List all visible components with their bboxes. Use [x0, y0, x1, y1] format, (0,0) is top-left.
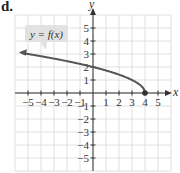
svg-text:y: y: [88, 0, 95, 11]
svg-text:3: 3: [84, 48, 90, 60]
svg-text:2: 2: [116, 96, 122, 108]
svg-text:−2: −2: [77, 113, 89, 125]
svg-text:1: 1: [103, 96, 109, 108]
function-label-callout: y = f(x): [25, 25, 68, 42]
svg-text:−5: −5: [22, 96, 34, 108]
svg-text:−2: −2: [61, 96, 73, 108]
svg-text:x: x: [172, 85, 179, 99]
function-label: y = f(x): [30, 28, 63, 40]
svg-text:−4: −4: [35, 96, 47, 108]
svg-text:3: 3: [129, 96, 135, 108]
svg-text:1: 1: [84, 74, 90, 86]
svg-text:−4: −4: [77, 139, 89, 151]
svg-text:2: 2: [84, 61, 90, 73]
svg-text:5: 5: [155, 96, 161, 108]
svg-text:4: 4: [142, 96, 148, 108]
svg-text:−3: −3: [77, 126, 89, 138]
svg-text:−5: −5: [77, 152, 89, 164]
svg-text:−3: −3: [48, 96, 60, 108]
svg-text:−1: −1: [77, 100, 89, 112]
svg-text:5: 5: [84, 22, 90, 34]
svg-text:4: 4: [84, 35, 90, 47]
